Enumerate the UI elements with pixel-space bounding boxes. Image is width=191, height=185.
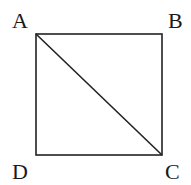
- square-diagram: [0, 0, 191, 185]
- vertex-label-c: C: [165, 161, 180, 183]
- diagonal-AC: [36, 34, 162, 155]
- vertex-label-b: B: [168, 10, 183, 32]
- vertex-label-d: D: [12, 161, 28, 183]
- vertex-label-a: A: [12, 10, 28, 32]
